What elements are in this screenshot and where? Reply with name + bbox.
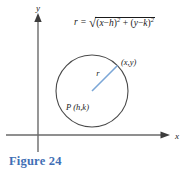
center-point-label: P (h,k) bbox=[65, 102, 89, 112]
formula-lhs: r bbox=[74, 18, 78, 28]
radius-label: r bbox=[96, 68, 100, 78]
x-axis-arrowhead bbox=[161, 131, 171, 138]
formula-equals: = bbox=[81, 18, 86, 28]
distance-formula: r = √ (x−h)2+(y−k)2 bbox=[74, 17, 155, 29]
formula-radical: √ (x−h)2+(y−k)2 bbox=[89, 17, 155, 29]
term2-exponent: 2 bbox=[151, 16, 154, 23]
x-axis-label: x bbox=[174, 131, 179, 141]
point-xy-label: (x,y) bbox=[121, 57, 137, 67]
figure-caption: Figure 24 bbox=[9, 154, 62, 169]
formula-radicand: (x−h)2+(y−k)2 bbox=[95, 17, 155, 29]
term1-exponent: 2 bbox=[117, 16, 120, 23]
y-axis-label: y bbox=[35, 3, 40, 13]
formula-plus-sign: + bbox=[123, 18, 128, 28]
figure-container: y x r (x,y) P (h,k) r = √ (x−h)2+(y−k)2 … bbox=[0, 0, 189, 175]
y-axis-arrowhead bbox=[34, 13, 41, 22]
